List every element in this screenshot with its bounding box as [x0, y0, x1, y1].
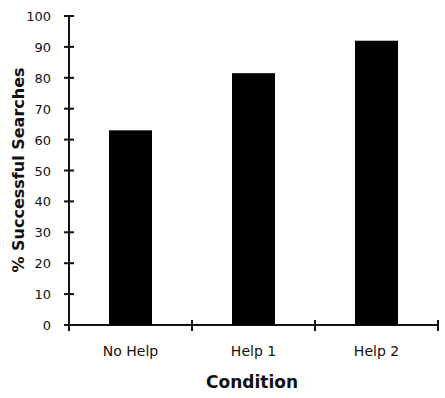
y-tick-label: 10: [11, 287, 51, 302]
x-axis-label: Condition: [206, 372, 298, 392]
y-tick-label: 100: [11, 9, 51, 24]
y-tick-label: 30: [11, 225, 51, 240]
y-tick-label: 60: [11, 132, 51, 147]
y-tick-label: 90: [11, 39, 51, 54]
y-tick-label: 80: [11, 70, 51, 85]
bar-help-2: [355, 41, 398, 325]
bar-chart: % Successful Searches Condition 01020304…: [0, 0, 445, 398]
x-category-label: Help 1: [231, 343, 276, 359]
x-category-label: Help 2: [354, 343, 399, 359]
y-tick-label: 40: [11, 194, 51, 209]
y-tick-label: 50: [11, 163, 51, 178]
y-tick-label: 70: [11, 101, 51, 116]
bar-help-1: [232, 73, 275, 325]
x-category-label: No Help: [103, 343, 158, 359]
y-tick-label: 0: [11, 318, 51, 333]
y-tick-label: 20: [11, 256, 51, 271]
plot-area: [0, 0, 445, 398]
bar-no-help: [109, 130, 152, 325]
